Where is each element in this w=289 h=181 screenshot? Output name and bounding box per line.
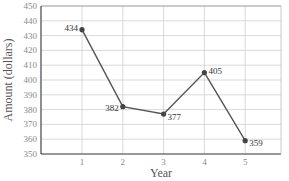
x-axis-title: Year [150, 166, 172, 180]
x-tick-label: 5 [243, 157, 248, 167]
data-value-label: 377 [168, 112, 182, 122]
y-tick-label: 370 [24, 119, 38, 129]
y-tick-label: 430 [24, 31, 38, 41]
x-tick-label: 1 [80, 157, 85, 167]
data-point-marker [243, 138, 248, 143]
y-tick-label: 450 [24, 1, 38, 11]
y-tick-label: 380 [24, 105, 38, 115]
x-tick-label: 4 [202, 157, 207, 167]
y-tick-label: 420 [24, 45, 38, 55]
y-axis-title: Amount (dollars) [1, 39, 15, 122]
data-value-label: 359 [249, 138, 263, 148]
y-tick-label: 350 [24, 149, 38, 159]
data-point-marker [161, 111, 166, 116]
y-tick-label: 390 [24, 90, 38, 100]
data-point-marker [120, 104, 125, 109]
data-point-marker [79, 27, 84, 32]
y-tick-label: 440 [24, 16, 38, 26]
data-value-label: 382 [105, 103, 119, 113]
line-chart: 350360370380390400410420430440450 12345 … [0, 0, 289, 181]
x-tick-label: 2 [121, 157, 126, 167]
data-value-label: 405 [208, 66, 222, 76]
y-tick-label: 360 [24, 134, 38, 144]
y-tick-label: 410 [24, 60, 38, 70]
y-axis-tick-labels: 350360370380390400410420430440450 [24, 1, 38, 159]
data-point-marker [202, 70, 207, 75]
data-value-label: 434 [65, 23, 79, 33]
y-tick-label: 400 [24, 75, 38, 85]
